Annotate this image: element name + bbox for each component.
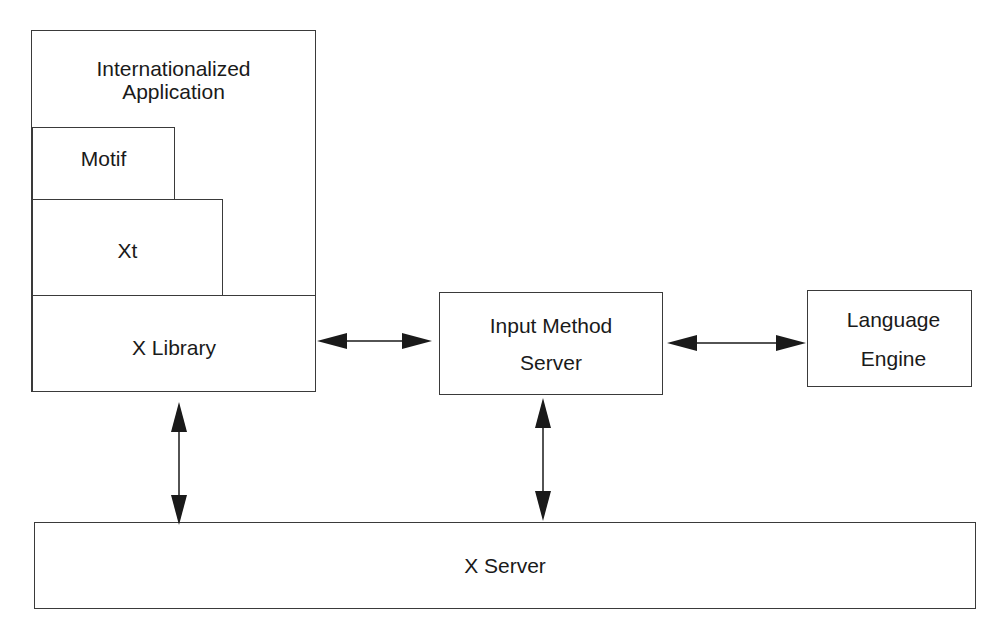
- xt-label: Xt: [33, 238, 222, 264]
- arrow-ims-engine-icon: [667, 335, 806, 351]
- ims-box: Input Method Server: [439, 292, 663, 395]
- arrow-xlib-ims-icon: [317, 333, 432, 349]
- arrow-ims-xserver-icon: [535, 398, 551, 521]
- xlib-label: X Library: [33, 335, 315, 361]
- ims-label-line2: Server: [440, 350, 662, 376]
- xserver-label: X Server: [35, 553, 975, 579]
- engine-label-line2: Engine: [808, 346, 971, 372]
- motif-label: Motif: [33, 146, 174, 172]
- xlib-box: X Library: [32, 295, 316, 392]
- xt-box: Xt: [32, 199, 223, 296]
- application-label-line2: Application: [32, 79, 315, 105]
- arrow-xlib-xserver-icon: [171, 402, 187, 525]
- ims-label-line1: Input Method: [440, 313, 662, 339]
- motif-box: Motif: [32, 127, 175, 200]
- engine-label-line1: Language: [808, 307, 971, 333]
- xserver-box: X Server: [34, 522, 976, 609]
- engine-box: Language Engine: [807, 290, 972, 387]
